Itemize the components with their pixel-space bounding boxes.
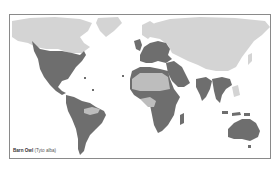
- greenland: [96, 17, 122, 37]
- se-asia-islands-light: [232, 85, 240, 97]
- map-frame: Barn Owl (Tyto alba): [9, 14, 271, 159]
- species-scientific-name: (Tyto alba): [34, 148, 56, 153]
- range-madagascar: [180, 113, 184, 125]
- range-british-isles: [134, 39, 142, 51]
- world-range-map: [10, 15, 272, 160]
- range-australia: [228, 119, 260, 141]
- range-south-america: [66, 95, 106, 155]
- range-tasmania: [248, 145, 251, 148]
- canada-landmass: [12, 17, 92, 53]
- range-se-asia: [212, 77, 232, 103]
- range-indonesia: [222, 111, 250, 116]
- species-common-name: Barn Owl: [13, 148, 33, 153]
- map-caption: Barn Owl (Tyto alba): [13, 149, 56, 154]
- range-india: [196, 77, 212, 101]
- sahara: [132, 73, 170, 91]
- japan: [248, 53, 252, 65]
